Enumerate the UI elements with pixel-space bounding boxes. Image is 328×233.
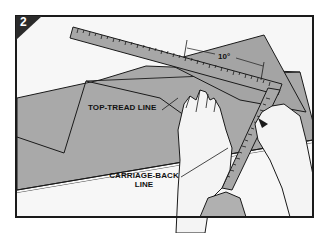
top-tread-line-label: TOP-TREAD LINE bbox=[88, 103, 156, 112]
carriage-back-line-label: CARRIAGE-BACK LINE bbox=[104, 171, 184, 189]
angle-label: 10° bbox=[218, 52, 230, 61]
instruction-illustration: 2 10° TOP-TREAD LINE CARRIAGE-BACK LINE bbox=[0, 0, 328, 233]
illustration-canvas bbox=[0, 0, 328, 233]
carriage-back-line-label-2: LINE bbox=[104, 180, 184, 189]
step-number: 2 bbox=[20, 15, 27, 29]
carriage-back-line-label-1: CARRIAGE-BACK bbox=[104, 171, 184, 180]
